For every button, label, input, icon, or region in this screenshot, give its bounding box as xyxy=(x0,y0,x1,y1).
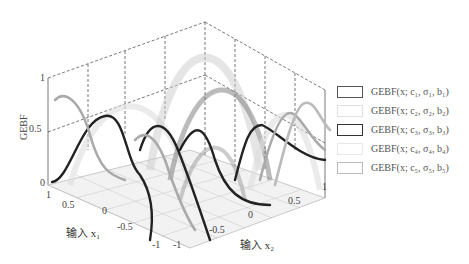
legend-label: GEBF(x; c₃, σ₃, b₃) xyxy=(371,124,449,135)
legend-swatch xyxy=(337,105,363,117)
x2-tick-neg0.5: -0.5 xyxy=(209,225,225,235)
legend-item: GEBF(x; c₂, σ₂, b₂) xyxy=(337,101,449,120)
legend-item: GEBF(x; c₄, σ₄, b₄) xyxy=(337,139,449,158)
z-tick-0.5: 0.5 xyxy=(29,124,42,134)
x1-tick-1: 1 xyxy=(46,190,51,200)
legend-item: GEBF(x; c₁, σ₁, b₁) xyxy=(337,82,449,101)
x1-tick-neg1: -1 xyxy=(152,240,160,250)
x2-tick-0.5: 0.5 xyxy=(288,196,301,206)
x2-tick-1: 1 xyxy=(322,182,327,192)
x1-tick-neg0.5: -0.5 xyxy=(117,222,133,232)
legend-swatch xyxy=(337,124,363,136)
x1-axis-label: 输入 x₁ xyxy=(66,224,100,240)
legend: GEBF(x; c₁, σ₁, b₁) GEBF(x; c₂, σ₂, b₂) … xyxy=(337,82,449,177)
x2-axis-label: 输入 x₂ xyxy=(240,236,274,252)
legend-item: GEBF(x; c₃, σ₃, b₃) xyxy=(337,120,449,139)
legend-label: GEBF(x; c₁, σ₁, b₁) xyxy=(371,86,449,97)
legend-swatch xyxy=(337,143,363,155)
legend-label: GEBF(x; c₅, σ₅, b₅) xyxy=(371,162,449,173)
z-tick-1: 1 xyxy=(40,73,45,83)
legend-swatch xyxy=(337,162,363,174)
legend-label: GEBF(x; c₂, σ₂, b₂) xyxy=(371,105,449,116)
z-tick-0: 0 xyxy=(40,178,45,188)
z-axis-label: GEBF xyxy=(18,114,29,140)
legend-label: GEBF(x; c₄, σ₄, b₄) xyxy=(371,143,449,154)
x1-tick-0: 0 xyxy=(102,206,107,216)
x1-tick-0.5: 0.5 xyxy=(62,200,75,210)
legend-swatch xyxy=(337,86,363,98)
x2-tick-0: 0 xyxy=(248,210,253,220)
x2-tick-neg1: -1 xyxy=(173,240,181,250)
legend-item: GEBF(x; c₅, σ₅, b₅) xyxy=(337,158,449,177)
